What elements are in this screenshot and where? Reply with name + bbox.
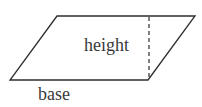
base-label: base — [38, 84, 70, 104]
parallelogram-diagram: height base — [0, 0, 202, 107]
height-label: height — [84, 35, 129, 55]
